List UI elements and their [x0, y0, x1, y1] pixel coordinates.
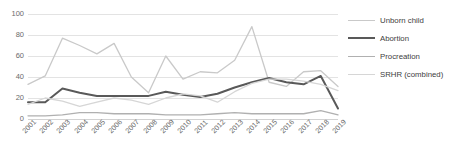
y-axis: 100806040200 — [0, 14, 24, 119]
x-tick-label: 2002 — [37, 117, 55, 135]
x-tick-label: 2012 — [210, 117, 228, 135]
x-tick-label: 2011 — [192, 118, 209, 135]
x-tick-label: 2014 — [244, 117, 262, 135]
legend-label: Unborn child — [380, 16, 424, 25]
legend-item[interactable]: SRHR (combined) — [348, 65, 452, 83]
plot-area — [28, 14, 338, 119]
x-tick-label: 2016 — [279, 117, 297, 135]
legend-label: Procreation — [380, 52, 420, 61]
legend-item[interactable]: Unborn child — [348, 11, 452, 29]
x-tick-label: 2010 — [175, 117, 193, 135]
x-tick-label: 2008 — [141, 117, 159, 135]
series-layer — [28, 14, 338, 119]
series-line — [28, 76, 338, 109]
x-axis: 2001200220032004200520062007200820092010… — [28, 119, 338, 156]
x-tick-label: 2013 — [227, 117, 245, 135]
legend-swatch-icon — [348, 56, 375, 57]
legend-swatch-icon — [348, 37, 375, 39]
legend-swatch-icon — [348, 74, 375, 75]
x-tick-label: 2007 — [124, 117, 142, 135]
legend-label: SRHR (combined) — [380, 70, 443, 79]
legend-swatch-icon — [348, 20, 375, 21]
x-tick-label: 2015 — [261, 117, 279, 135]
x-tick-label: 2009 — [158, 117, 176, 135]
y-tick-label: 20 — [0, 94, 24, 102]
x-tick-label: 2003 — [55, 117, 73, 135]
y-tick-label: 0 — [0, 115, 24, 123]
y-tick-label: 100 — [0, 10, 24, 18]
legend-item[interactable]: Abortion — [348, 29, 452, 47]
y-tick-label: 60 — [0, 52, 24, 60]
x-tick-label: 2006 — [106, 117, 124, 135]
line-chart: 100806040200 200120022003200420052006200… — [0, 0, 454, 156]
y-tick-label: 80 — [0, 31, 24, 39]
x-tick-label: 2004 — [72, 117, 90, 135]
x-tick-label: 2005 — [89, 117, 107, 135]
x-tick-label: 2017 — [296, 117, 314, 135]
chart-legend: Unborn childAbortionProcreationSRHR (com… — [348, 11, 452, 83]
x-tick-label: 2019 — [330, 117, 348, 135]
x-tick-label: 2018 — [313, 117, 331, 135]
legend-label: Abortion — [380, 34, 409, 43]
y-tick-label: 40 — [0, 73, 24, 81]
legend-item[interactable]: Procreation — [348, 47, 452, 65]
series-line — [28, 111, 338, 116]
